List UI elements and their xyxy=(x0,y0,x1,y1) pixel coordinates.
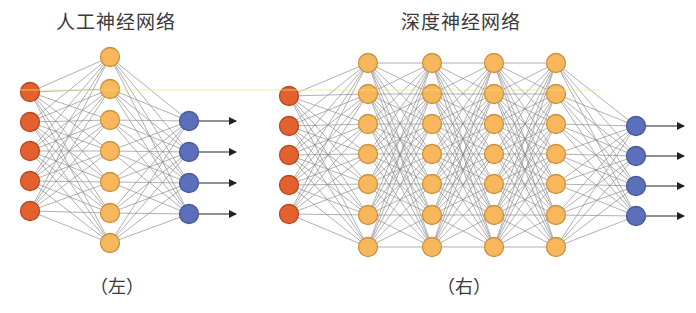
input-node xyxy=(280,117,299,136)
output-node xyxy=(627,147,646,166)
hidden-node xyxy=(423,85,442,104)
input-node xyxy=(21,83,40,102)
hidden-node xyxy=(547,85,566,104)
connection-edge xyxy=(289,184,368,214)
connection-edge xyxy=(289,94,368,126)
connection-edge xyxy=(30,57,110,92)
left-caption: （左） xyxy=(90,272,144,298)
hidden-node xyxy=(359,145,378,164)
hidden-node xyxy=(101,204,120,223)
hidden-node xyxy=(101,48,120,67)
input-layer xyxy=(21,83,40,221)
connection-edge xyxy=(289,214,368,215)
input-node xyxy=(280,87,299,106)
hidden-node xyxy=(547,175,566,194)
hidden-node xyxy=(359,175,378,194)
hidden-node xyxy=(101,173,120,192)
left-network-title: 人工神经网络 xyxy=(56,7,176,34)
connection-edge xyxy=(289,185,368,247)
input-node xyxy=(280,146,299,165)
hidden-node xyxy=(485,115,504,134)
hidden-node xyxy=(423,115,442,134)
output-node xyxy=(627,177,646,196)
hidden-node xyxy=(547,238,566,257)
hidden-node xyxy=(423,145,442,164)
input-node xyxy=(21,172,40,191)
hidden-node xyxy=(423,238,442,257)
hidden-node xyxy=(423,175,442,194)
connection-edge xyxy=(289,126,368,247)
connection-edge xyxy=(30,182,110,211)
hidden-node xyxy=(423,54,442,73)
connection-edge xyxy=(110,120,189,121)
right-network-title: 深度神经网络 xyxy=(401,7,521,34)
hidden-node xyxy=(547,54,566,73)
output-layer xyxy=(180,112,199,224)
output-node xyxy=(180,205,199,224)
connection-edge xyxy=(110,89,189,121)
connection-edge xyxy=(289,214,368,247)
hidden-node xyxy=(101,80,120,99)
hidden-node xyxy=(485,54,504,73)
hidden-node xyxy=(485,175,504,194)
deep-neural-network xyxy=(280,54,685,257)
connection-edge xyxy=(110,121,189,151)
connection-edge xyxy=(556,184,636,216)
hidden-layer xyxy=(359,54,378,257)
connection-edge xyxy=(110,152,189,243)
connection-edge xyxy=(556,186,636,247)
output-node xyxy=(627,117,646,136)
connection-edge xyxy=(30,211,110,213)
connection-edge xyxy=(556,216,636,247)
hidden-node xyxy=(359,54,378,73)
hidden-node xyxy=(359,85,378,104)
connection-edge xyxy=(289,63,368,96)
hidden-node xyxy=(485,238,504,257)
right-caption: （右） xyxy=(437,272,491,298)
input-node xyxy=(280,176,299,195)
connection-edge xyxy=(30,89,110,211)
connection-edge xyxy=(110,57,189,152)
hidden-node xyxy=(359,206,378,225)
hidden-node xyxy=(547,115,566,134)
input-node xyxy=(280,205,299,224)
connection-edge xyxy=(289,63,368,214)
connection-edge xyxy=(556,63,636,126)
connection-edge xyxy=(110,57,189,121)
input-node xyxy=(21,113,40,132)
artificial-neural-network xyxy=(21,48,237,253)
hidden-node xyxy=(423,206,442,225)
hidden-layer xyxy=(101,48,120,253)
connection-edge xyxy=(30,57,110,181)
connection-edge xyxy=(30,211,110,243)
hidden-node xyxy=(101,234,120,253)
output-node xyxy=(180,112,199,131)
connection-edge xyxy=(556,126,636,247)
connection-edge xyxy=(556,215,636,216)
connection-edge xyxy=(556,94,636,126)
connection-edge xyxy=(556,186,636,215)
connections xyxy=(289,63,636,247)
input-node xyxy=(21,202,40,221)
input-node xyxy=(21,142,40,161)
neural-network-diagram xyxy=(0,0,696,313)
hidden-node xyxy=(485,206,504,225)
output-node xyxy=(180,143,199,162)
hidden-node xyxy=(101,142,120,161)
hidden-node xyxy=(547,206,566,225)
output-node xyxy=(180,174,199,193)
hidden-node xyxy=(101,111,120,130)
hidden-node xyxy=(485,145,504,164)
hidden-node xyxy=(485,85,504,104)
input-layer xyxy=(280,87,299,224)
output-node xyxy=(627,207,646,226)
connection-edge xyxy=(30,122,110,182)
connection-edge xyxy=(556,63,636,156)
output-layer xyxy=(627,117,646,226)
hidden-node xyxy=(359,115,378,134)
connection-edge xyxy=(556,126,636,184)
connection-edge xyxy=(110,214,189,243)
hidden-node xyxy=(359,238,378,257)
hidden-node xyxy=(547,145,566,164)
